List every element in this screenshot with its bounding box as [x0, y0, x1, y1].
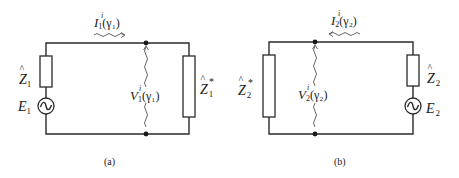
hat-mark: ^ [428, 62, 433, 73]
panel-b: Z2 ^ * Z2 ^ E2 I2(γ₂) i V2(γ₂) i (b) [238, 9, 440, 168]
junction-node-top-b [313, 40, 318, 45]
conjugate-mark: * [209, 76, 214, 87]
arrow-up-icon [144, 46, 149, 50]
junction-node-top-a [144, 41, 149, 46]
superscript-i: i [139, 84, 141, 93]
resistor-z2 [407, 55, 419, 86]
superscript-i: i [101, 11, 103, 20]
resistor-z1 [40, 56, 52, 87]
resistor-z1-conj [183, 56, 195, 117]
circuit-figure: Z1 ^ E1 Z1 ^ * I1(γ₁) i V1(γ₁) i (a) [0, 0, 459, 178]
ac-source-e2-icon [405, 98, 421, 114]
wire-loop-a [46, 43, 189, 134]
hat-mark: ^ [20, 63, 25, 74]
label-current-i2: I2(γ₂) [330, 13, 357, 29]
arrow-left-icon [329, 32, 333, 37]
wavy-current-arrow-b [330, 33, 360, 36]
caption-a: (a) [104, 156, 115, 168]
label-voltage-v1: V1(γ₁) [130, 88, 159, 104]
resistor-z2-conj [263, 55, 275, 117]
label-current-i1: I1(γ₁) [93, 15, 120, 31]
junction-node-bottom-a [144, 132, 149, 137]
caption-b: (b) [334, 156, 346, 168]
superscript-i: i [338, 9, 340, 18]
label-e2: E2 [425, 101, 440, 118]
label-voltage-v2: V2(γ₂) [298, 87, 327, 103]
hat-mark: ^ [239, 74, 244, 85]
label-z1: Z1 [19, 72, 31, 89]
label-z2: Z2 [427, 71, 440, 88]
conjugate-mark: * [248, 77, 253, 88]
ac-source-e1-icon [38, 98, 54, 114]
superscript-i: i [307, 83, 309, 92]
panel-a: Z1 ^ E1 Z1 ^ * I1(γ₁) i V1(γ₁) i (a) [17, 11, 214, 168]
junction-node-bottom-b [313, 132, 318, 137]
label-e1: E1 [17, 99, 31, 116]
hat-mark: ^ [201, 73, 206, 84]
arrow-up-icon [313, 45, 318, 49]
wavy-voltage-line-b [314, 46, 317, 127]
wire-loop-b [269, 42, 413, 134]
wavy-voltage-line-a [145, 47, 148, 127]
arrow-right-icon [121, 33, 125, 38]
wavy-current-arrow-a [94, 34, 124, 37]
